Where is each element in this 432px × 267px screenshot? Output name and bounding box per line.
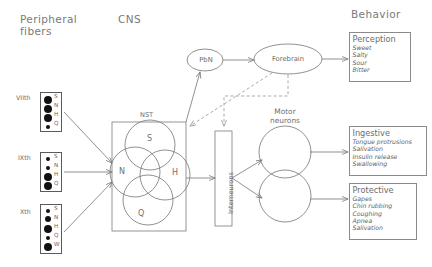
- fiber-letter-ixth-h: H: [54, 171, 58, 177]
- perception-item-bitter: Bitter: [350, 66, 410, 73]
- ingestive-item-salivation: Salivation: [350, 145, 426, 152]
- protective-title: Protective: [350, 184, 416, 195]
- fiber-box-ixth[interactable]: [40, 152, 62, 192]
- header-behavior: Behavior: [351, 9, 401, 21]
- fiber-letter-xth-s: S: [54, 205, 58, 211]
- ingestive-title: Ingestive: [350, 127, 426, 138]
- arrow-interneurons-to-motor-lower: [232, 178, 262, 198]
- fiber-letter-viith-h: H: [54, 111, 58, 117]
- ingestive-item-insulin-release: Insulin release: [350, 153, 426, 160]
- fiber-letter-viith-s: S: [54, 93, 58, 99]
- header-peripheral-line2: fibers: [20, 26, 77, 38]
- nerve-label-ixth: IXth: [18, 154, 31, 161]
- behavior-box-protective[interactable]: Protective Gapes Chin rubbing Coughing A…: [349, 183, 417, 240]
- fiber-dot-xth-s: [46, 209, 50, 213]
- nerve-label-xth: Xth: [20, 208, 31, 215]
- pbn-label: PbN: [194, 56, 218, 64]
- fiber-letter-xth-w: W: [54, 241, 60, 247]
- header-cns: CNS: [118, 14, 141, 26]
- perception-item-sour: Sour: [350, 59, 410, 66]
- fiber-dot-ixth-h: [44, 173, 52, 181]
- fiber-box-viith[interactable]: [40, 92, 62, 132]
- fiber-dot-xth-n: [45, 216, 51, 222]
- fiber-dot-xth-w: [44, 243, 52, 251]
- fiber-dot-ixth-s: [46, 157, 50, 161]
- arrow-viith-to-nst: [64, 112, 112, 163]
- fiber-dot-ixth-q: [44, 182, 52, 190]
- fiber-dot-ixth-n: [46, 166, 50, 170]
- interneurons-label: Interneurons: [227, 172, 235, 214]
- protective-item-coughing: Coughing: [350, 210, 416, 217]
- fiber-letter-ixth-q: Q: [54, 180, 58, 186]
- perception-title: Perception: [350, 33, 410, 44]
- arrow-nst-to-pbn: [186, 72, 200, 122]
- forebrain-label: Forebrain: [263, 55, 313, 63]
- motor-label-line2: neurons: [255, 117, 315, 126]
- fiber-letter-xth-n: N: [54, 214, 58, 220]
- fiber-dot-viith-s: [44, 96, 52, 104]
- protective-item-salivation: Salivation: [350, 224, 416, 231]
- fiber-dot-xth-h: [44, 225, 52, 233]
- behavior-box-ingestive[interactable]: Ingestive Tongue protrusions Salivation …: [349, 126, 427, 176]
- fiber-letter-ixth-s: S: [54, 153, 58, 159]
- fiber-letter-viith-n: N: [54, 102, 58, 108]
- diagram-canvas: Peripheral fibers CNS Behavior VIIth S N…: [0, 0, 432, 267]
- fiber-dot-xth-q: [46, 236, 50, 240]
- fiber-dot-viith-n: [44, 105, 52, 113]
- fiber-letter-viith-q: Q: [54, 120, 58, 126]
- arrow-interneurons-to-motor-upper: [232, 160, 262, 178]
- perception-item-sweet: Sweet: [350, 44, 410, 51]
- perception-item-salty: Salty: [350, 51, 410, 58]
- nst-circle-label-n: N: [119, 167, 125, 176]
- nst-circle-label-q: Q: [138, 209, 144, 218]
- ingestive-item-tongue-protrusions: Tongue protrusions: [350, 138, 426, 145]
- nst-label: NST: [140, 111, 153, 119]
- fiber-dot-viith-h: [44, 114, 52, 122]
- protective-item-chin-rubbing: Chin rubbing: [350, 202, 416, 209]
- fiber-dot-viith-q: [46, 125, 50, 129]
- nst-circle-label-s: S: [147, 134, 152, 143]
- fiber-letter-ixth-n: N: [54, 162, 58, 168]
- protective-item-apnea: Apnea: [350, 217, 416, 224]
- behavior-box-perception[interactable]: Perception Sweet Salty Sour Bitter: [349, 32, 411, 82]
- ingestive-item-swallowing: Swallowing: [350, 160, 426, 167]
- header-peripheral-line1: Peripheral: [20, 14, 77, 26]
- arrow-xth-to-nst: [64, 182, 112, 232]
- nst-circle-label-h: H: [172, 168, 178, 177]
- protective-item-gapes: Gapes: [350, 195, 416, 202]
- nerve-label-viith: VIIth: [16, 94, 30, 101]
- header-peripheral-fibers: Peripheral fibers: [20, 14, 77, 37]
- fiber-letter-xth-q: Q: [54, 232, 58, 238]
- motor-neurons-label: Motor neurons: [255, 108, 315, 125]
- fiber-letter-xth-h: H: [54, 223, 58, 229]
